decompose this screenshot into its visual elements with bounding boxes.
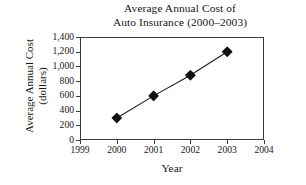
y-tick-mark (76, 125, 80, 126)
y-tick-label: 1,400 (28, 32, 74, 42)
y-tick-mark (76, 66, 80, 67)
chart-figure: Average Annual Cost of Auto Insurance (2… (0, 0, 306, 185)
chart-title-line-2: Auto Insurance (2000–2003) (60, 16, 300, 30)
y-tick-label: 800 (28, 76, 74, 86)
y-tick-label: 1,000 (28, 61, 74, 71)
y-tick-label: 600 (28, 90, 74, 100)
y-tick-mark (76, 81, 80, 82)
x-tick-label: 2004 (242, 145, 286, 155)
chart-title: Average Annual Cost of Auto Insurance (2… (60, 2, 300, 29)
plot-area (80, 37, 264, 140)
y-tick-label: 200 (28, 120, 74, 130)
chart-title-line-1: Average Annual Cost of (60, 2, 300, 16)
y-tick-label: 1,200 (28, 46, 74, 56)
y-tick-label: 0 (28, 135, 74, 145)
y-tick-mark (76, 52, 80, 53)
y-tick-mark (76, 96, 80, 97)
x-axis-title: Year (80, 162, 264, 174)
y-tick-mark (76, 111, 80, 112)
y-tick-label: 400 (28, 105, 74, 115)
y-tick-mark (76, 37, 80, 38)
